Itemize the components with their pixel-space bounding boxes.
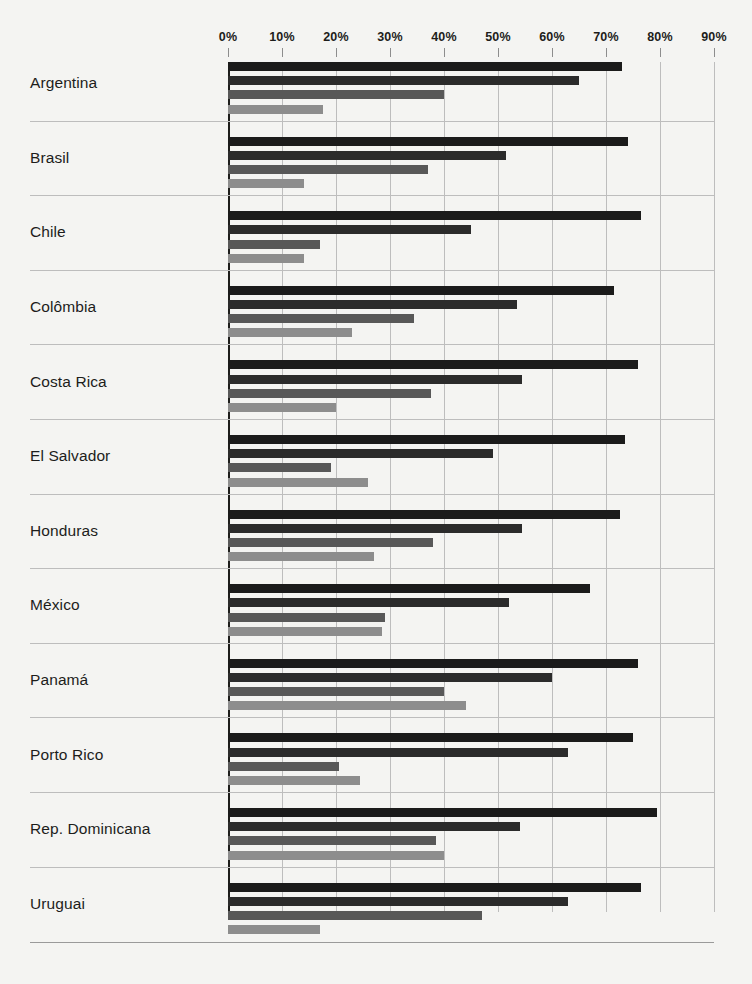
bar bbox=[228, 851, 444, 860]
bar-group: Rep. Dominicana bbox=[0, 808, 752, 883]
bar bbox=[228, 151, 506, 160]
group-separator bbox=[30, 568, 714, 569]
bar bbox=[228, 360, 638, 369]
bar bbox=[228, 552, 374, 561]
category-label: Uruguai bbox=[30, 895, 85, 913]
bar bbox=[228, 673, 552, 682]
x-tick-mark bbox=[336, 48, 337, 57]
bar bbox=[228, 286, 614, 295]
bar-group: Panamá bbox=[0, 659, 752, 734]
bar bbox=[228, 90, 444, 99]
bar bbox=[228, 584, 590, 593]
x-tick-label: 80% bbox=[647, 30, 673, 44]
x-tick-label: 90% bbox=[701, 30, 727, 44]
bar bbox=[228, 524, 522, 533]
x-tick-mark bbox=[498, 48, 499, 57]
bar bbox=[228, 776, 360, 785]
bar bbox=[228, 897, 568, 906]
bar bbox=[228, 748, 568, 757]
bar bbox=[228, 165, 428, 174]
bar bbox=[228, 240, 320, 249]
bar bbox=[228, 659, 638, 668]
group-separator bbox=[30, 344, 714, 345]
bar bbox=[228, 925, 320, 934]
x-tick-label: 40% bbox=[431, 30, 457, 44]
bar bbox=[228, 808, 657, 817]
group-separator bbox=[30, 717, 714, 718]
bar bbox=[228, 314, 414, 323]
x-tick-mark bbox=[444, 48, 445, 57]
bar bbox=[228, 225, 471, 234]
x-tick-mark bbox=[552, 48, 553, 57]
bar-group: Costa Rica bbox=[0, 360, 752, 435]
category-label: Porto Rico bbox=[30, 746, 103, 764]
x-tick-mark bbox=[228, 48, 229, 57]
group-separator bbox=[30, 195, 714, 196]
bar bbox=[228, 435, 625, 444]
bar-group: Brasil bbox=[0, 137, 752, 212]
bar bbox=[228, 762, 339, 771]
bar-group: Uruguai bbox=[0, 883, 752, 958]
bar bbox=[228, 701, 466, 710]
category-label: Honduras bbox=[30, 522, 98, 540]
bar bbox=[228, 179, 304, 188]
group-separator bbox=[30, 494, 714, 495]
x-tick-label: 60% bbox=[539, 30, 565, 44]
bar bbox=[228, 538, 433, 547]
x-tick-mark bbox=[660, 48, 661, 57]
bar bbox=[228, 478, 368, 487]
bar bbox=[228, 598, 509, 607]
category-label: México bbox=[30, 596, 80, 614]
category-label: Colômbia bbox=[30, 298, 96, 316]
category-label: Brasil bbox=[30, 149, 69, 167]
category-label: Argentina bbox=[30, 74, 97, 92]
x-tick-mark bbox=[282, 48, 283, 57]
bar bbox=[228, 254, 304, 263]
bar-group: El Salvador bbox=[0, 435, 752, 510]
bar bbox=[228, 403, 336, 412]
x-tick-mark bbox=[714, 48, 715, 57]
bar bbox=[228, 627, 382, 636]
group-separator bbox=[30, 867, 714, 868]
bar bbox=[228, 687, 444, 696]
x-tick-label: 0% bbox=[219, 30, 237, 44]
category-label: Chile bbox=[30, 223, 66, 241]
x-tick-mark bbox=[606, 48, 607, 57]
bar bbox=[228, 822, 520, 831]
bar bbox=[228, 463, 331, 472]
category-label: Panamá bbox=[30, 671, 88, 689]
bar-group: Colômbia bbox=[0, 286, 752, 361]
x-tick-label: 70% bbox=[593, 30, 619, 44]
bar bbox=[228, 449, 493, 458]
category-label: El Salvador bbox=[30, 447, 110, 465]
bar bbox=[228, 76, 579, 85]
bar bbox=[228, 211, 641, 220]
x-tick-mark bbox=[390, 48, 391, 57]
group-separator bbox=[30, 121, 714, 122]
bar bbox=[228, 375, 522, 384]
bar bbox=[228, 911, 482, 920]
bar bbox=[228, 328, 352, 337]
category-label: Rep. Dominicana bbox=[30, 820, 150, 838]
bar bbox=[228, 613, 385, 622]
bar bbox=[228, 137, 628, 146]
x-tick-label: 10% bbox=[269, 30, 295, 44]
bar-group: México bbox=[0, 584, 752, 659]
group-separator bbox=[30, 792, 714, 793]
baseline bbox=[30, 942, 714, 943]
category-label: Costa Rica bbox=[30, 373, 107, 391]
x-tick-label: 20% bbox=[323, 30, 349, 44]
bar-group: Argentina bbox=[0, 62, 752, 137]
bar bbox=[228, 62, 622, 71]
bar-group: Chile bbox=[0, 211, 752, 286]
bar bbox=[228, 883, 641, 892]
bar bbox=[228, 733, 633, 742]
bar bbox=[228, 300, 517, 309]
bar bbox=[228, 105, 323, 114]
group-separator bbox=[30, 270, 714, 271]
group-separator bbox=[30, 419, 714, 420]
bar bbox=[228, 836, 436, 845]
bar bbox=[228, 510, 620, 519]
group-separator bbox=[30, 643, 714, 644]
x-tick-label: 50% bbox=[485, 30, 511, 44]
